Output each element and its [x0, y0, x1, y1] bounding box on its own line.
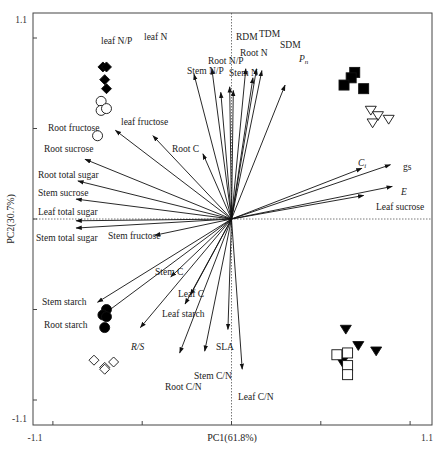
triangle-down-marker: [353, 342, 364, 351]
y-axis-title: PC2(30.7%): [5, 194, 17, 244]
loading-label: leaf fructose: [121, 117, 168, 127]
loading-label: leaf N/P: [101, 36, 132, 46]
circle-marker: [100, 323, 110, 333]
loading-arrow: [194, 74, 232, 219]
loading-label: Stem N/P: [187, 66, 224, 76]
loading-leaf-fructose: leaf fructose: [121, 117, 232, 219]
loading-label: Leaf C/N: [238, 392, 274, 402]
loading-label: SLA: [216, 342, 234, 352]
loading-label: Stem starch: [42, 297, 87, 307]
x-tick-max: 1.1: [421, 433, 433, 443]
score-group-open-circle: [93, 96, 112, 140]
square-marker: [359, 84, 369, 94]
score-group-filled-circle: [98, 305, 112, 333]
triangle-down-marker: [371, 347, 382, 356]
loading-label: Stem sucrose: [38, 188, 88, 198]
chart-canvas: leaf N/Pleaf NStem N/PRoot N/PStem NRDMR…: [0, 0, 444, 452]
score-group-filled-square: [339, 67, 369, 93]
loading-label: SDM: [280, 40, 301, 50]
loading-label: Leaf total sugar: [38, 207, 98, 217]
loading-label: Root total sugar: [38, 170, 100, 180]
loading-label: TDM: [259, 29, 281, 39]
square-marker: [343, 348, 353, 358]
loading-label: E: [400, 187, 407, 197]
loading-arrow: [180, 219, 232, 353]
square-marker: [339, 80, 349, 90]
loading-arrow: [185, 219, 231, 304]
square-marker: [343, 370, 353, 380]
loading-label: Stem C: [155, 267, 183, 277]
loading-label: Root starch: [44, 320, 88, 330]
loading-label: Ci: [358, 158, 366, 170]
loading-arrow: [78, 181, 232, 219]
loading-label: gs: [403, 162, 412, 172]
triangle-down-marker: [340, 325, 351, 334]
loading-label: Stem total sugar: [36, 233, 99, 243]
triangle-down-marker: [367, 119, 378, 128]
circle-marker: [101, 104, 111, 114]
loading-label: Stem fructose: [108, 231, 161, 241]
loading-ci: Ci: [232, 158, 367, 219]
loading-label: Root N: [240, 48, 268, 58]
loading-label: Root C/N: [165, 382, 202, 392]
loading-stem-c-n: Stem C/N: [194, 219, 232, 381]
loading-label: leaf N: [144, 32, 168, 42]
score-group-filled-diamond: [98, 62, 112, 94]
loading-label: Root fructose: [48, 123, 99, 133]
square-marker: [343, 361, 353, 371]
loading-root-c-n: Root C/N: [165, 219, 232, 392]
square-marker: [332, 350, 342, 360]
loading-label: RDM: [236, 32, 258, 42]
x-axis-title: PC1(61.8%): [207, 432, 257, 444]
loading-leaf-sucrose: Leaf sucrose: [232, 195, 425, 219]
loading-label: Root N/P: [208, 56, 244, 66]
score-group-open-diamond: [89, 355, 119, 374]
triangle-down-marker: [383, 115, 394, 124]
loading-label: Stem C/N: [194, 371, 232, 381]
loading-label: Pn: [298, 54, 309, 66]
loading-pn: Pn: [232, 54, 309, 219]
x-tick-min: -1.1: [27, 433, 42, 443]
pca-biplot: leaf N/Pleaf NStem N/PRoot N/PStem NRDMR…: [0, 0, 444, 452]
loading-arrow: [232, 85, 286, 219]
circle-marker: [101, 312, 111, 322]
loading-arrow: [232, 195, 364, 219]
diamond-marker: [89, 355, 99, 365]
y-tick-max: 1.1: [15, 15, 27, 25]
loading-label: Stem N: [229, 68, 258, 78]
score-group-open-square: [332, 348, 353, 380]
loading-label: Leaf sucrose: [376, 202, 424, 212]
loading-label: Root sucrose: [44, 144, 93, 154]
diamond-marker: [101, 84, 111, 94]
y-tick-min: -1.1: [12, 414, 27, 424]
diamond-marker: [100, 75, 110, 85]
loading-arrow: [205, 219, 232, 351]
loading-root-c: Root C: [172, 144, 232, 219]
score-group-open-triangle-down: [365, 106, 394, 127]
diamond-marker: [109, 357, 119, 367]
loading-arrow: [232, 168, 362, 219]
loading-label: R/S: [130, 342, 144, 352]
loading-arrow: [232, 71, 262, 219]
circle-marker: [93, 131, 103, 141]
loading-label: Leaf starch: [162, 309, 205, 319]
loading-leaf-c-n: Leaf C/N: [232, 219, 274, 402]
loading-label: Root C: [172, 144, 199, 154]
